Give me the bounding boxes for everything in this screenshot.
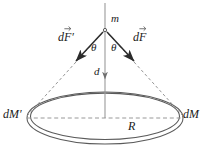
- diagram-canvas: [0, 0, 212, 152]
- label-force-right: dF: [133, 31, 146, 43]
- label-radius: R: [128, 120, 135, 132]
- label-point-mass: m: [111, 13, 119, 24]
- label-force-left-f: F: [64, 30, 71, 44]
- physics-ring-gravity-diagram: m dF′ dF θ θ d dM′ dM R: [0, 0, 212, 152]
- label-force-left-prime: ′: [71, 30, 74, 44]
- label-ring-element-left: dM′: [3, 108, 22, 120]
- label-force-right-f-vector: F: [139, 31, 146, 43]
- label-angle-left: θ: [91, 42, 96, 53]
- label-force-left: dF′: [58, 31, 74, 43]
- force-vector-left-arrow: [76, 32, 103, 61]
- label-axial-distance: d: [94, 66, 100, 77]
- label-force-left-f-vector: F: [64, 31, 71, 43]
- point-mass-marker: [103, 28, 106, 31]
- label-angle-right: θ: [111, 42, 116, 53]
- label-force-right-f: F: [139, 30, 146, 44]
- label-ring-element-right: dM: [183, 108, 199, 120]
